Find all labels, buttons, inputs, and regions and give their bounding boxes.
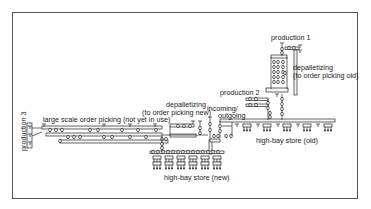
label-depalletizing-old-sub: (to order picking old) (293, 71, 359, 80)
label-production-2: production 2 (220, 88, 260, 97)
high-bay-store-new (150, 150, 224, 169)
label-production-3: production 3 (19, 111, 28, 151)
production-3-station (27, 123, 42, 148)
label-large-scale-order-picking: large scale order picking (not yet in us… (43, 115, 170, 124)
label-high-bay-store-new: high-bay store (new) (164, 173, 230, 182)
conveyor-layout-diagram: production 1 depalletizing (to order pic… (0, 0, 371, 209)
label-outgoing: outgoing (218, 111, 246, 120)
incoming-outgoing-station (208, 117, 220, 154)
large-scale-order-picking-line (42, 124, 168, 143)
label-production-1: production 1 (271, 33, 311, 42)
label-high-bay-store-old: high-bay store (old) (256, 136, 318, 145)
production-2-station (246, 94, 283, 120)
